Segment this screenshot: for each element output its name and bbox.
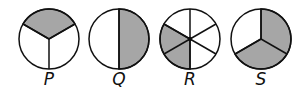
label-p: P <box>34 69 64 89</box>
circle-p <box>19 9 79 69</box>
label-r: R <box>175 69 205 89</box>
label-q: Q <box>104 69 134 89</box>
circle-s <box>231 9 291 69</box>
circle-r <box>160 9 220 69</box>
label-s: S <box>246 69 276 89</box>
circle-q <box>89 9 149 69</box>
